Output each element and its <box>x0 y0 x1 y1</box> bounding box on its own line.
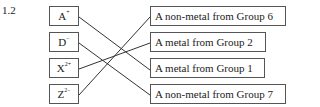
ion-charge: 2+ <box>65 61 71 67</box>
ion-box-z: Z2− <box>49 84 79 104</box>
ion-box-a: A+ <box>49 6 79 26</box>
ion-charge: − <box>66 35 69 41</box>
ion-charge: 2− <box>64 87 70 93</box>
ion-box-x: X2+ <box>49 58 79 78</box>
line-a-to-group1 <box>79 17 150 70</box>
ion-symbol: X <box>57 62 65 74</box>
line-z-to-group6 <box>79 17 150 95</box>
line-d-to-group7 <box>79 43 150 95</box>
description-group1: A metal from Group 1 <box>150 58 265 78</box>
ion-box-d: D− <box>49 32 79 52</box>
description-group6: A non-metal from Group 6 <box>150 6 286 26</box>
description-group2: A metal from Group 2 <box>150 32 266 52</box>
description-group7: A non-metal from Group 7 <box>150 84 286 104</box>
ion-charge: + <box>66 9 69 15</box>
